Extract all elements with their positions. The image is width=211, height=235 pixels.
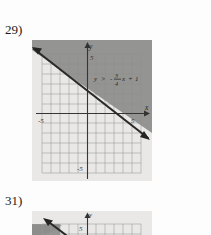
axis-label-x: x: [144, 103, 149, 112]
problem-number-29: 29): [5, 22, 22, 38]
inequality-plus: +: [128, 75, 133, 83]
problem-number-31: 31): [5, 193, 22, 209]
tick-label-y-positive: 5: [79, 225, 83, 233]
inequality-constant: 1: [135, 75, 139, 83]
worksheet-page: 29): [0, 0, 211, 235]
shaded-region-block: [32, 224, 60, 235]
graph-panel-31: y 5: [32, 211, 152, 235]
graph-panel-29: 5 5 -5 -5 y x y > - 3 4 x + 1: [32, 40, 152, 181]
graph-31-svg: y 5: [32, 211, 152, 235]
inequality-denominator: 4: [115, 81, 118, 87]
tick-label-y-negative: -5: [77, 165, 83, 173]
tick-label-x-positive: 5: [131, 117, 135, 125]
graph-29-svg: 5 5 -5 -5 y x y > - 3 4 x + 1: [32, 40, 152, 181]
tick-label-x-negative: -5: [38, 117, 44, 125]
inequality-relation: >: [101, 75, 106, 83]
inequality-numerator: 3: [114, 73, 118, 79]
axis-label-y: y: [88, 42, 93, 51]
tick-label-y-positive: 5: [90, 54, 94, 62]
